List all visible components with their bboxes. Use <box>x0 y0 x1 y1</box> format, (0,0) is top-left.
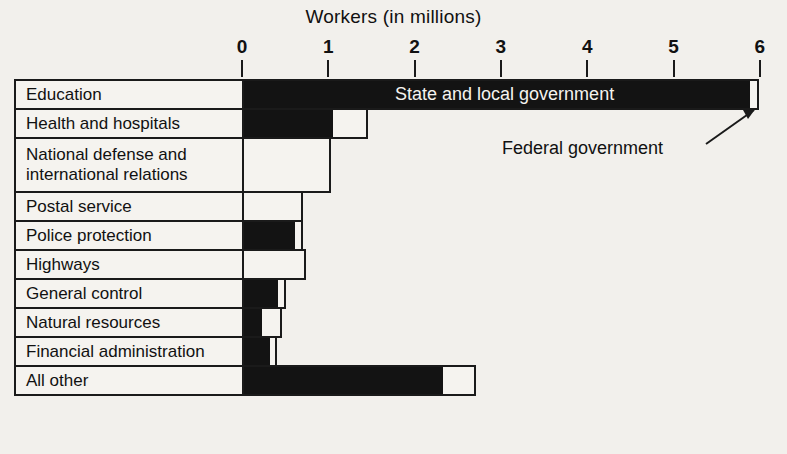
category-label-line1: General control <box>26 284 142 304</box>
bar-state-and-local-segment <box>243 280 278 307</box>
category-label-line1: Financial administration <box>26 342 205 362</box>
category-label-cell: Highways <box>14 249 244 280</box>
category-label-cell: Postal service <box>14 191 244 222</box>
category-label-cell: Education <box>14 79 244 110</box>
bar-total-federal-segment <box>241 137 331 193</box>
bar-total-federal-segment <box>241 191 303 222</box>
category-label-cell: All other <box>14 365 244 396</box>
category-label-cell: Natural resources <box>14 307 244 338</box>
chart-root: Workers (in millions) 0123456 EducationH… <box>0 0 787 454</box>
bar-state-and-local-segment <box>243 338 270 365</box>
annotation-federal-government: Federal government <box>502 138 663 159</box>
category-label-line1: Health and hospitals <box>26 114 180 134</box>
category-label-line2: international relations <box>26 165 188 185</box>
category-label-line1: Education <box>26 85 102 105</box>
category-label-cell: National defense andinternational relati… <box>14 137 244 193</box>
bar-state-and-local-segment <box>243 222 295 249</box>
category-label-cell: General control <box>14 278 244 309</box>
bar-state-and-local-segment <box>243 309 262 336</box>
category-label-line1: National defense and <box>26 145 188 165</box>
category-label-line1: Postal service <box>26 197 132 217</box>
bar-state-and-local-segment <box>243 367 443 394</box>
category-label-line1: Highways <box>26 255 100 275</box>
bar-state-and-local-segment <box>243 110 333 137</box>
category-label-cell: Financial administration <box>14 336 244 367</box>
category-label-line1: All other <box>26 371 88 391</box>
category-label-cell: Police protection <box>14 220 244 251</box>
bar-total-federal-segment <box>241 249 306 280</box>
plot-area: EducationHealth and hospitalsNational de… <box>0 0 787 454</box>
category-label-line1: Natural resources <box>26 313 160 333</box>
category-label-cell: Health and hospitals <box>14 108 244 139</box>
category-label-line1: Police protection <box>26 226 152 246</box>
series-label-state-and-local: State and local government <box>395 84 614 105</box>
